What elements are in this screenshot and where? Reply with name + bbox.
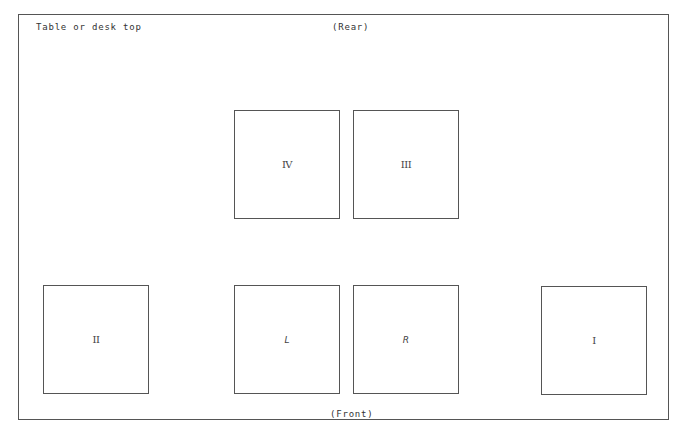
rear-label: (Rear) xyxy=(332,22,369,32)
box-r-label: R xyxy=(403,335,409,345)
box-iv-label: IV xyxy=(282,159,292,170)
box-iii: III xyxy=(353,110,459,219)
box-ii: II xyxy=(43,285,149,394)
box-iv: IV xyxy=(234,110,340,219)
box-iii-label: III xyxy=(401,159,411,170)
box-r: R xyxy=(353,285,459,394)
box-i-label: I xyxy=(592,335,595,346)
box-l: L xyxy=(234,285,340,394)
box-i: I xyxy=(541,286,647,395)
front-label: (Front) xyxy=(330,409,374,419)
box-l-label: L xyxy=(284,335,289,345)
table-title: Table or desk top xyxy=(36,22,142,32)
box-ii-label: II xyxy=(93,334,100,345)
